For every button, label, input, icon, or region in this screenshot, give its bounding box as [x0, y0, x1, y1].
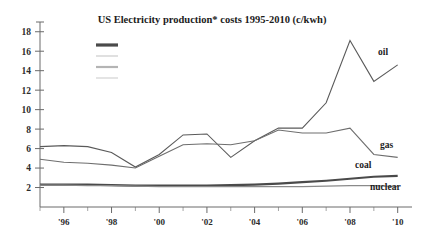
line-chart: US Electricity production* costs 1995-20… — [0, 0, 422, 246]
x-tick-label: '00 — [153, 217, 165, 227]
x-tick-label: '04 — [249, 217, 261, 227]
series-line-oil — [40, 41, 398, 168]
y-tick-label: 16 — [22, 47, 32, 57]
y-tick-label: 10 — [22, 105, 32, 115]
x-tick-label: '06 — [297, 217, 309, 227]
series-label-nuclear: nuclear — [370, 182, 401, 192]
x-tick-label: '08 — [344, 217, 356, 227]
y-tick-label: 6 — [26, 144, 31, 154]
y-tick-label: 4 — [26, 163, 31, 173]
series-lines — [40, 41, 398, 187]
series-labels: oilgascoalnuclear — [355, 47, 401, 192]
y-axis: 24681012141618 — [22, 22, 45, 193]
x-tick-label: '98 — [106, 217, 118, 227]
series-label-oil: oil — [378, 47, 388, 57]
x-axis: '96'98'00'02'04'06'08'10 — [40, 207, 404, 227]
x-tick-label: '02 — [201, 217, 213, 227]
series-label-gas: gas — [380, 140, 394, 150]
y-tick-label: 18 — [22, 27, 32, 37]
y-tick-label: 2 — [26, 183, 31, 193]
y-tick-label: 8 — [26, 125, 31, 135]
y-tick-label: 14 — [22, 66, 32, 76]
y-tick-label: 12 — [22, 86, 32, 96]
series-label-coal: coal — [355, 160, 372, 170]
chart-title: US Electricity production* costs 1995-20… — [98, 14, 327, 26]
legend — [96, 45, 118, 78]
x-tick-label: '10 — [392, 217, 404, 227]
x-tick-label: '96 — [58, 217, 70, 227]
series-line-coal — [40, 176, 398, 186]
chart-container: US Electricity production* costs 1995-20… — [0, 0, 422, 246]
